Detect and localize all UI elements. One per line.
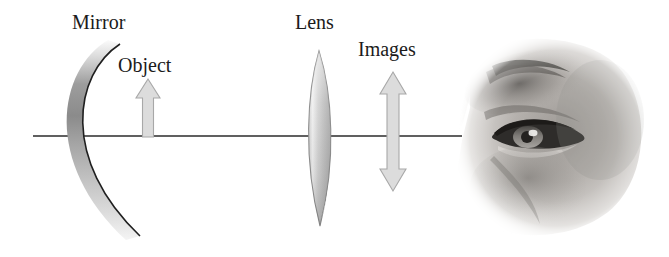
converging-lens bbox=[309, 51, 334, 226]
images-double-arrow bbox=[380, 72, 406, 191]
images-arrow-shape bbox=[380, 72, 406, 191]
temple-shadow bbox=[556, 60, 644, 180]
images-label: Images bbox=[358, 39, 416, 59]
object-label: Object bbox=[118, 55, 171, 75]
object-arrow-shape bbox=[136, 79, 160, 137]
mirror-label: Mirror bbox=[72, 12, 125, 32]
lens-shading bbox=[309, 51, 331, 226]
optics-diagram: Mirror Object Lens Images bbox=[0, 0, 669, 257]
lens-label: Lens bbox=[295, 12, 334, 32]
human-eye-photo bbox=[454, 38, 644, 235]
catchlight bbox=[529, 130, 538, 136]
diagram-canvas bbox=[0, 0, 669, 257]
object-arrow bbox=[136, 79, 160, 137]
